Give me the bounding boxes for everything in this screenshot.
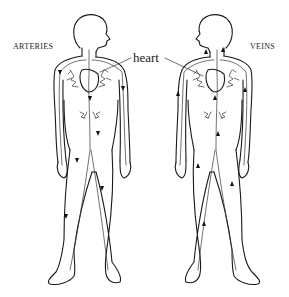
arteries-figure [48,15,130,285]
circulatory-diagram [0,0,289,297]
veins-figure [175,15,259,285]
